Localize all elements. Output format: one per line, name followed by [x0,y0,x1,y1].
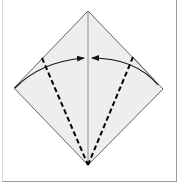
origami-diagram [0,0,186,195]
paper-square [14,11,163,165]
